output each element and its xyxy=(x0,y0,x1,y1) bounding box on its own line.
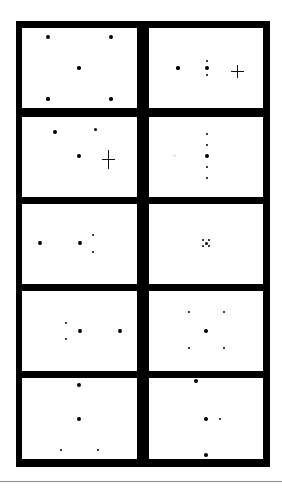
dot-icon xyxy=(109,97,113,101)
dot-icon xyxy=(204,329,208,333)
dot-icon xyxy=(77,383,81,387)
smudge-mark xyxy=(173,154,176,157)
dot-icon xyxy=(205,66,209,70)
dot-icon xyxy=(176,66,179,69)
dot-icon xyxy=(94,128,97,131)
dot-icon xyxy=(118,329,122,333)
dot-icon xyxy=(46,97,50,101)
dot-icon xyxy=(77,417,81,421)
crosshair-vertical-stroke xyxy=(237,65,238,78)
dot-pattern-figure xyxy=(0,0,282,492)
dot-icon xyxy=(78,241,82,245)
dot-icon xyxy=(204,417,208,421)
bottom-rule-divider xyxy=(0,481,282,482)
dot-icon xyxy=(53,130,57,134)
dot-icon xyxy=(77,66,81,70)
dot-icon xyxy=(77,154,81,158)
crosshair-vertical-stroke xyxy=(108,150,109,169)
dot-icon xyxy=(204,453,208,457)
dot-icon xyxy=(194,379,198,383)
dot-icon xyxy=(78,329,82,333)
crosshair-icon xyxy=(231,65,244,78)
dot-icon xyxy=(38,241,42,245)
dot-icon xyxy=(205,154,209,158)
dot-icon xyxy=(205,242,208,245)
crosshair-icon xyxy=(102,150,115,169)
